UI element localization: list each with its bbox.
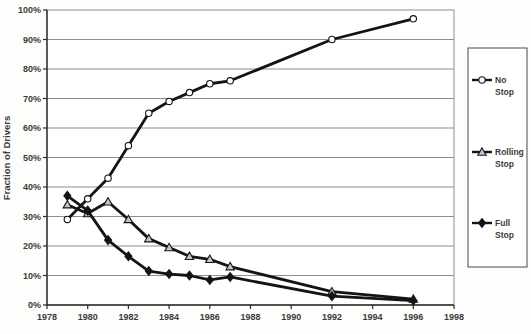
y-tick-label: 100% (18, 5, 41, 15)
marker-circle-no-stop (227, 78, 233, 84)
legend-label: Full (495, 218, 510, 228)
y-tick-label: 20% (23, 241, 41, 251)
legend-label: No (495, 75, 506, 85)
stop-sign-compliance-chart: 0%10%20%30%40%50%60%70%80%90%100%1978198… (0, 0, 531, 334)
y-tick-label: 40% (23, 182, 41, 192)
legend-label: Stop (495, 230, 514, 240)
x-tick-label: 1984 (159, 312, 179, 322)
y-tick-label: 60% (23, 123, 41, 133)
marker-circle-no-stop (207, 81, 213, 87)
y-tick-label: 80% (23, 64, 41, 74)
y-tick-label: 50% (23, 153, 41, 163)
marker-circle-no-stop (85, 196, 91, 202)
x-tick-label: 1996 (403, 312, 423, 322)
plot-area: 0%10%20%30%40%50%60%70%80%90%100%1978198… (18, 5, 464, 322)
legend: NoStopRollingStopFullStop (468, 48, 527, 267)
legend-label: Stop (495, 87, 514, 97)
marker-circle-no-stop (64, 216, 70, 222)
x-tick-label: 1982 (118, 312, 138, 322)
y-tick-label: 10% (23, 271, 41, 281)
y-tick-label: 30% (23, 212, 41, 222)
marker-circle-no-stop (146, 110, 152, 116)
x-tick-label: 1986 (200, 312, 220, 322)
x-tick-label: 1990 (281, 312, 301, 322)
legend-label: Stop (495, 159, 514, 169)
marker-circle-no-stop (186, 89, 192, 95)
x-tick-label: 1980 (78, 312, 98, 322)
chart: 0%10%20%30%40%50%60%70%80%90%100%1978198… (0, 0, 531, 334)
marker-circle-no-stop (105, 175, 111, 181)
marker-circle-no-stop (329, 36, 335, 42)
marker-circle-no-stop (125, 143, 131, 149)
x-tick-label: 1978 (37, 312, 57, 322)
y-axis-title: Fraction of Drivers (1, 116, 12, 200)
y-tick-label: 90% (23, 35, 41, 45)
x-tick-label: 1992 (322, 312, 342, 322)
legend-label: Rolling (495, 147, 524, 157)
y-tick-label: 0% (28, 300, 41, 310)
x-tick-label: 1988 (240, 312, 260, 322)
x-tick-label: 1998 (444, 312, 464, 322)
legend-marker-circle (479, 77, 485, 83)
y-tick-label: 70% (23, 94, 41, 104)
x-tick-label: 1994 (363, 312, 383, 322)
marker-circle-no-stop (410, 16, 416, 22)
marker-circle-no-stop (166, 98, 172, 104)
